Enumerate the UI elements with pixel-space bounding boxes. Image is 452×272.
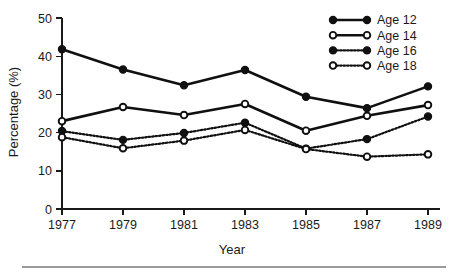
data-point [302,93,309,100]
legend-marker [364,32,371,39]
y-axis-title: Percentage (%) [6,67,21,157]
y-tick-label-40: 40 [38,50,52,64]
data-point [120,104,127,111]
data-point [424,113,431,120]
y-tick-label-50: 50 [38,12,52,26]
legend-item-age-18[interactable]: Age 18 [330,59,417,73]
legend-label: Age 18 [377,59,417,73]
legend-item-age-16[interactable]: Age 16 [329,44,416,58]
x-tick-label-1981: 1981 [170,218,198,232]
legend-item-age-14[interactable]: Age 14 [330,29,417,43]
x-tick-label-1977: 1977 [48,218,76,232]
legend-label: Age 16 [377,44,417,58]
data-point [181,137,188,144]
legend-item-age-12[interactable]: Age 12 [329,13,416,27]
y-tick-label-20: 20 [38,126,52,140]
x-tick-label-1979: 1979 [109,218,137,232]
data-point [59,118,66,125]
legend-marker [329,16,336,23]
series-layer [58,46,431,160]
data-point [424,83,431,90]
data-point [241,66,248,73]
y-tick-label-10: 10 [38,164,52,178]
x-tick-label-1983: 1983 [231,218,259,232]
data-point [119,136,126,143]
data-point [425,151,432,158]
legend-label: Age 14 [377,29,417,43]
x-axis-ticks: 1977197919811983198519871989 [48,209,442,232]
legend-marker [363,16,370,23]
line-chart: 01020304050 1977197919811983198519871989… [0,0,452,272]
data-point [242,101,249,108]
legend-marker [329,47,336,54]
data-point [363,105,370,112]
data-point [303,146,310,153]
data-point [425,102,432,109]
y-tick-label-30: 30 [38,88,52,102]
x-tick-label-1989: 1989 [414,218,442,232]
data-point [363,135,370,142]
data-point [58,46,65,53]
legend-marker [363,47,370,54]
series-line [62,49,428,108]
data-point [119,66,126,73]
data-point [59,134,66,141]
data-point [180,82,187,89]
chart-svg: 01020304050 1977197919811983198519871989… [0,0,452,272]
x-axis-title: Year [219,242,246,257]
x-tick-label-1985: 1985 [292,218,320,232]
data-point [242,127,249,134]
data-point [120,145,127,152]
data-point [303,127,310,134]
chart-legend: Age 12Age 14Age 16Age 18 [329,13,416,73]
legend-label: Age 12 [377,13,417,27]
legend-marker [330,32,337,39]
legend-marker [364,62,371,69]
x-tick-label-1987: 1987 [353,218,381,232]
data-point [181,112,188,119]
data-point [364,112,371,119]
data-point [241,119,248,126]
series-age-18 [59,127,432,160]
y-axis-ticks: 01020304050 [38,12,62,217]
legend-marker [330,62,337,69]
data-point [180,129,187,136]
data-point [364,153,371,160]
y-tick-label-0: 0 [45,203,52,217]
